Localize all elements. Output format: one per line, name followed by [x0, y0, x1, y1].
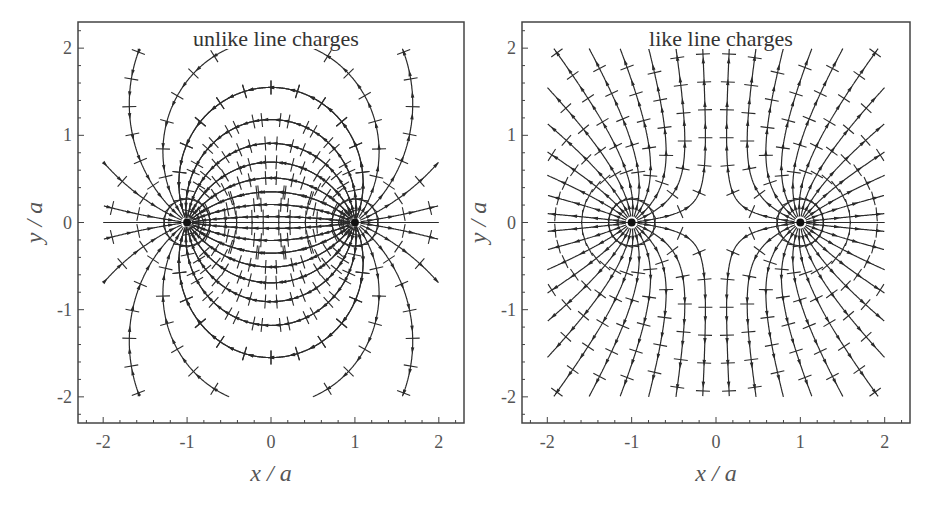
- x-tick-label: -1: [180, 432, 195, 452]
- y-tick-label: 0: [63, 213, 72, 233]
- like-charges-plot: -2-2-1-1001122x / ay / alike line charge…: [470, 0, 937, 515]
- line-charge-marker: [628, 219, 636, 227]
- y-tick-label: 0: [507, 213, 516, 233]
- line-charge-marker: [351, 219, 359, 227]
- x-tick-label: 2: [880, 432, 889, 452]
- y-axis-label: y / a: [21, 202, 47, 245]
- unlike-charges-plot: -2-2-1-1001122x / ay / aunlike line char…: [0, 0, 470, 515]
- field-lines: [102, 48, 439, 397]
- x-axis-label: x / a: [249, 460, 291, 486]
- y-tick-label: -1: [501, 300, 516, 320]
- x-tick-label: 2: [434, 432, 443, 452]
- line-charge-marker: [183, 219, 191, 227]
- plot-title: like line charges: [649, 26, 793, 51]
- y-tick-label: 1: [507, 125, 516, 145]
- y-tick-label: 1: [63, 125, 72, 145]
- line-charge-marker: [796, 219, 804, 227]
- y-tick-label: -2: [57, 387, 72, 407]
- y-tick-label: 2: [507, 38, 516, 58]
- y-tick-label: -2: [501, 387, 516, 407]
- x-tick-label: 1: [796, 432, 805, 452]
- x-tick-label: 0: [267, 432, 276, 452]
- plot-title: unlike line charges: [193, 26, 359, 51]
- y-tick-label: -1: [57, 300, 72, 320]
- x-tick-label: -2: [96, 432, 111, 452]
- y-axis-label: y / a: [470, 202, 491, 245]
- y-tick-label: 2: [63, 38, 72, 58]
- x-tick-label: -1: [624, 432, 639, 452]
- field-lines: [547, 48, 884, 397]
- x-tick-label: 0: [712, 432, 721, 452]
- x-tick-label: -2: [540, 432, 555, 452]
- x-tick-label: 1: [350, 432, 359, 452]
- x-axis-label: x / a: [694, 460, 736, 486]
